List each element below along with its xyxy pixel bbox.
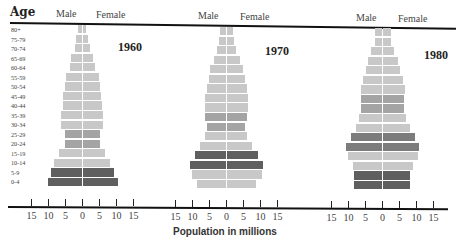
age-label: 35-39 xyxy=(11,111,41,121)
bar-female xyxy=(383,95,404,103)
bar-male xyxy=(359,114,381,122)
bar-female xyxy=(227,65,243,73)
bar-female xyxy=(83,121,103,129)
age-label: 65-69 xyxy=(11,54,41,64)
bar-female xyxy=(383,104,404,112)
bar-female xyxy=(383,133,415,141)
bar-male xyxy=(348,152,382,160)
male-label-1980: Male xyxy=(356,12,377,23)
x-tick xyxy=(48,199,49,206)
bar-female xyxy=(83,25,86,33)
bar-female xyxy=(383,124,410,132)
year-label-1980: 1980 xyxy=(424,48,448,63)
bar-male xyxy=(361,95,381,103)
age-label: 15-19 xyxy=(11,149,41,159)
x-tick xyxy=(133,199,134,206)
age-label: 5-9 xyxy=(11,168,41,178)
x-tick xyxy=(99,199,100,206)
bar-female xyxy=(383,76,403,84)
x-tick-label: 10 xyxy=(344,212,354,223)
age-label: 75-79 xyxy=(11,35,41,45)
bar-female xyxy=(83,54,94,62)
bar-male xyxy=(54,159,81,167)
bar-male xyxy=(51,168,82,176)
age-label: 80+ xyxy=(11,25,41,35)
x-tick xyxy=(65,199,66,206)
age-axis-title: Age xyxy=(10,5,35,19)
bar-male xyxy=(192,170,226,178)
bar-male xyxy=(48,178,82,186)
x-tick-label: 15 xyxy=(273,211,283,222)
x-tick-label: 5 xyxy=(97,210,102,221)
x-tick-label: 10 xyxy=(256,211,266,222)
x-tick xyxy=(365,201,366,208)
x-tick xyxy=(382,201,383,208)
bar-female xyxy=(227,94,248,102)
bar-female xyxy=(83,44,90,52)
bar-female xyxy=(383,152,418,160)
bar-male xyxy=(214,56,226,64)
x-tick-label: 15 xyxy=(429,212,439,223)
bar-male xyxy=(217,46,226,54)
male-label-1970: Male xyxy=(198,10,219,21)
female-label-1970: Female xyxy=(240,11,269,22)
bar-female xyxy=(227,27,233,35)
age-label: 40-44 xyxy=(11,101,41,111)
age-label: 0-4 xyxy=(11,177,41,187)
male-label-1960: Male xyxy=(56,8,77,19)
bar-female xyxy=(227,132,247,140)
bar-female xyxy=(227,161,264,169)
bar-female xyxy=(83,82,101,90)
bar-female xyxy=(83,35,88,43)
bar-female xyxy=(83,92,102,100)
x-tick-label: 10 xyxy=(44,210,54,221)
bar-female xyxy=(227,113,247,121)
x-tick-label: 15 xyxy=(129,210,139,221)
x-tick-label: 15 xyxy=(327,212,337,223)
x-tick xyxy=(277,200,278,207)
x-tick xyxy=(116,199,117,206)
bar-female xyxy=(83,149,105,157)
bar-male xyxy=(65,140,82,148)
bar-female xyxy=(383,114,407,122)
bar-female xyxy=(83,130,100,138)
x-tick-label: 5 xyxy=(363,212,368,223)
bar-female xyxy=(227,46,237,54)
age-label: 70-74 xyxy=(11,44,41,54)
age-label: 10-14 xyxy=(11,158,41,168)
bar-male xyxy=(361,104,381,112)
bar-female xyxy=(383,66,400,74)
bar-male xyxy=(371,47,381,55)
bar-female xyxy=(227,151,258,159)
bar-female xyxy=(83,63,96,71)
bar-female xyxy=(83,73,99,81)
bar-male xyxy=(375,28,382,36)
bar-male xyxy=(363,76,382,84)
bar-female xyxy=(383,38,392,46)
bar-male xyxy=(190,161,226,169)
bar-female xyxy=(383,143,420,151)
female-label-1980: Female xyxy=(398,13,427,24)
age-label: 20-24 xyxy=(11,139,41,149)
x-tick xyxy=(331,201,332,208)
bar-male xyxy=(66,73,81,81)
age-label: 60-64 xyxy=(11,63,41,73)
age-label: 25-29 xyxy=(11,130,41,140)
bar-female xyxy=(383,28,392,36)
x-tick-label: 0 xyxy=(80,210,85,221)
bar-male xyxy=(361,85,381,93)
bar-female xyxy=(383,57,398,65)
bar-female xyxy=(227,170,262,178)
bar-male xyxy=(346,143,382,151)
bar-male xyxy=(61,121,81,129)
bar-male xyxy=(366,66,381,74)
bar-male xyxy=(200,142,226,150)
x-tick-label: 5 xyxy=(241,211,246,222)
x-tick-label: 15 xyxy=(171,211,181,222)
bar-female xyxy=(227,75,246,83)
bar-male xyxy=(76,35,81,43)
bar-male xyxy=(209,75,226,83)
x-tick xyxy=(82,199,83,206)
age-label: 55-59 xyxy=(11,73,41,83)
bar-male xyxy=(63,101,82,109)
